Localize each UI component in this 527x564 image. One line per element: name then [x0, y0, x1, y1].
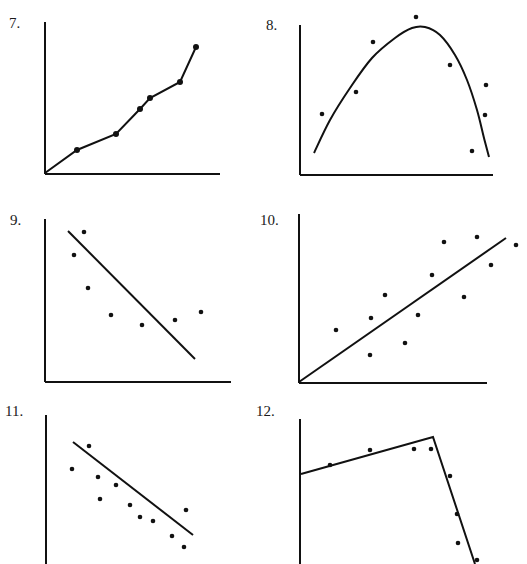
fit-line [68, 231, 195, 359]
data-point [82, 230, 87, 235]
data-point [334, 328, 339, 333]
data-point [72, 253, 77, 258]
data-point [448, 63, 453, 68]
data-point [368, 353, 373, 358]
data-point [430, 273, 435, 278]
data-point [177, 79, 183, 85]
fit-line [314, 26, 489, 157]
data-point [140, 323, 145, 328]
data-point [151, 519, 156, 524]
fit-line [301, 437, 475, 564]
chart-8 [300, 15, 493, 175]
data-point [113, 131, 119, 137]
data-point [147, 95, 153, 101]
data-point [484, 83, 489, 88]
data-point [137, 106, 143, 112]
chart-9 [45, 219, 231, 382]
data-point [369, 316, 374, 321]
chart-10 [299, 214, 518, 383]
data-point [483, 113, 488, 118]
series-line [45, 47, 196, 173]
data-point [182, 545, 187, 550]
data-point [448, 474, 453, 479]
fit-line [299, 238, 506, 382]
data-point [86, 286, 91, 291]
data-point [475, 558, 480, 563]
data-point [403, 341, 408, 346]
data-point [320, 112, 325, 117]
chart-12 [300, 419, 479, 564]
data-point [199, 310, 204, 315]
data-point [514, 243, 519, 248]
data-point [70, 467, 75, 472]
data-point [414, 15, 419, 20]
data-point [442, 240, 447, 245]
data-point [128, 503, 133, 508]
data-point [328, 463, 333, 468]
data-point [456, 541, 461, 546]
data-point [193, 44, 199, 50]
data-point [470, 149, 475, 154]
data-point [462, 295, 467, 300]
data-point [173, 318, 178, 323]
data-point [114, 483, 119, 488]
charts-canvas [0, 0, 527, 564]
fit-line [73, 442, 193, 535]
data-point [368, 448, 373, 453]
data-point [170, 534, 175, 539]
data-point [371, 40, 376, 45]
data-point [74, 147, 80, 153]
data-point [475, 235, 480, 240]
data-point [416, 313, 421, 318]
data-point [96, 475, 101, 480]
data-point [383, 293, 388, 298]
data-point [412, 447, 417, 452]
data-point [489, 263, 494, 268]
data-point [429, 447, 434, 452]
data-point [354, 90, 359, 95]
chart-7 [45, 22, 220, 174]
data-point [138, 515, 143, 520]
chart-11 [46, 415, 193, 564]
data-point [109, 313, 114, 318]
data-point [87, 444, 92, 449]
data-point [98, 497, 103, 502]
data-point [455, 512, 460, 517]
data-point [184, 508, 189, 513]
